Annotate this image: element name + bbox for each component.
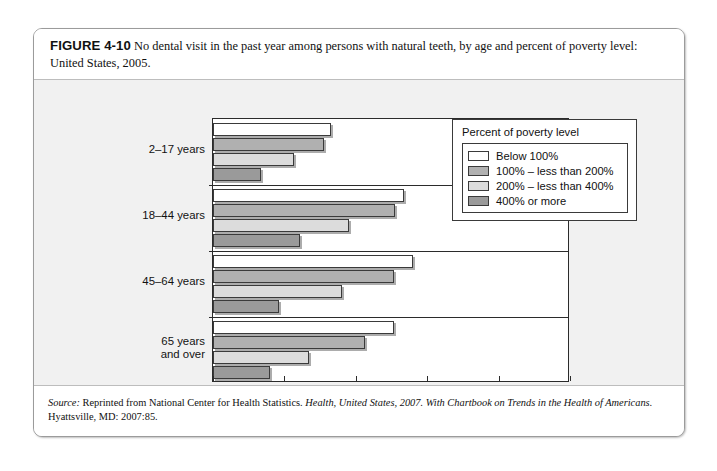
- figure-source: Source: Reprinted from National Center f…: [34, 386, 685, 437]
- bar: [213, 234, 300, 247]
- legend-swatch-icon: [468, 151, 489, 161]
- source-text-before: Reprinted from National Center for Healt…: [80, 397, 305, 408]
- source-text-after: Hyattsville, MD: 2007:85.: [48, 411, 158, 422]
- category-label: 2–17 years: [85, 143, 205, 157]
- bar: [213, 366, 270, 379]
- category-label-line: and over: [85, 348, 205, 362]
- group-separator: [213, 317, 568, 318]
- legend-item: 400% or more: [468, 193, 622, 208]
- category-label-line: 2–17 years: [85, 143, 205, 157]
- legend-swatch-icon: [468, 196, 489, 206]
- x-axis-tick: [427, 376, 428, 381]
- y-axis-tick: [209, 185, 214, 186]
- category-label-line: 45–64 years: [85, 275, 205, 289]
- x-axis-tick: [570, 376, 571, 381]
- category-label: 45–64 years: [85, 275, 205, 289]
- legend-swatch-icon: [468, 181, 489, 191]
- y-axis-tick: [209, 251, 214, 252]
- x-axis-tick: [284, 376, 285, 381]
- x-axis-tick: [499, 376, 500, 381]
- bar: [213, 321, 394, 334]
- group-separator: [213, 251, 568, 252]
- bar: [213, 351, 309, 364]
- legend-swatch-icon: [468, 166, 489, 176]
- chart-legend: Percent of poverty level Below 100%100% …: [452, 119, 637, 221]
- category-label: 18–44 years: [85, 209, 205, 223]
- legend-item: Below 100%: [468, 148, 622, 163]
- legend-item: 200% – less than 400%: [468, 178, 622, 193]
- bar: [213, 255, 413, 268]
- bar: [213, 123, 331, 136]
- figure-caption-text: No dental visit in the past year among p…: [50, 39, 637, 70]
- source-label: Source:: [48, 397, 80, 408]
- y-axis-tick: [209, 317, 214, 318]
- bar: [213, 168, 261, 181]
- legend-title: Percent of poverty level: [462, 126, 628, 138]
- legend-item-label: 100% – less than 200%: [496, 165, 614, 177]
- bar: [213, 285, 342, 298]
- source-publication-title: Health, United States, 2007. With Chartb…: [305, 397, 652, 408]
- category-label-line: 65 years: [85, 335, 205, 349]
- legend-item-label: 200% – less than 400%: [496, 180, 614, 192]
- bar: [213, 270, 394, 283]
- legend-item-label: 400% or more: [496, 195, 566, 207]
- figure-card: FIGURE 4-10 No dental visit in the past …: [33, 28, 685, 437]
- legend-item-label: Below 100%: [496, 150, 558, 162]
- bar: [213, 189, 404, 202]
- bar: [213, 153, 294, 166]
- x-axis-tick: [356, 376, 357, 381]
- figure-caption: FIGURE 4-10 No dental visit in the past …: [34, 29, 684, 79]
- legend-item: 100% – less than 200%: [468, 163, 622, 178]
- bar: [213, 204, 395, 217]
- bar: [213, 138, 324, 151]
- category-label-line: 18–44 years: [85, 209, 205, 223]
- chart-plot-panel: Percent of poverty level Below 100%100% …: [34, 79, 685, 386]
- bar: [213, 300, 279, 313]
- bar: [213, 336, 365, 349]
- x-axis-tick: [213, 376, 214, 381]
- category-label: 65 yearsand over: [85, 335, 205, 362]
- figure-number: FIGURE 4-10: [50, 38, 131, 53]
- bar: [213, 219, 349, 232]
- legend-items: Below 100%100% – less than 200%200% – le…: [462, 143, 628, 213]
